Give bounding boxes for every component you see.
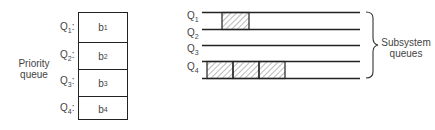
sq-q4-block-3	[259, 62, 285, 79]
subsystem-queues-title-line1: Subsystem	[377, 37, 435, 48]
sq-q1-block-1	[222, 13, 249, 30]
subsystem-queues-graphic	[0, 0, 435, 130]
subsystem-queues-title: Subsystem queues	[377, 37, 435, 59]
subsystem-queues-title-line2: queues	[377, 48, 435, 59]
sq-q4-block-2	[233, 62, 259, 79]
sq-q4-block-1	[207, 62, 233, 79]
